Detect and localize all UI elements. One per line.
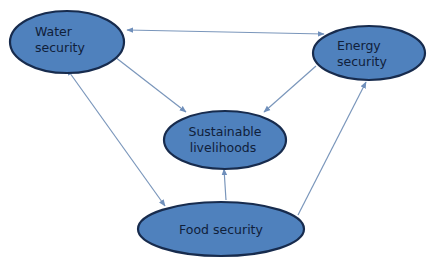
node-energy-line2: security (337, 54, 388, 69)
node-livelihoods-line2: livelihoods (190, 140, 257, 155)
node-water-line1: Water (35, 24, 73, 39)
edge-water-energy (127, 30, 324, 34)
node-food: Food security (138, 202, 304, 256)
node-livelihoods: Sustainable livelihoods (164, 111, 286, 169)
node-livelihoods-line1: Sustainable (188, 124, 261, 139)
edge-food-energy (298, 82, 366, 215)
node-food-line1: Food security (179, 222, 263, 237)
edge-water-livelihoods (115, 57, 186, 112)
edge-food-livelihoods (224, 169, 226, 200)
node-water-line2: security (35, 40, 86, 55)
edge-water-food (67, 69, 165, 206)
nexus-diagram: Water security Energy security Sustainab… (0, 0, 436, 263)
node-water: Water security (10, 11, 124, 73)
node-energy-line1: Energy (337, 38, 381, 53)
edge-energy-livelihoods (264, 66, 316, 112)
node-energy: Energy security (313, 26, 425, 80)
